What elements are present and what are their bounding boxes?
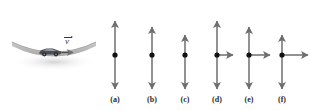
choice-label-e: (e) <box>237 95 261 104</box>
choice-diagrams <box>112 21 308 89</box>
choice-label-b: (b) <box>140 95 164 104</box>
origin-dot <box>112 52 117 57</box>
origin-dot <box>214 52 219 57</box>
origin-dot <box>279 52 284 57</box>
choice-diagram-d[interactable] <box>214 21 233 89</box>
choice-diagram-f[interactable] <box>279 35 308 89</box>
origin-dot <box>182 52 187 57</box>
choice-diagram-c[interactable] <box>182 35 187 89</box>
choice-label-f: (f) <box>270 95 294 104</box>
choice-diagram-a[interactable] <box>112 21 117 89</box>
choice-label-a: (a) <box>103 95 127 104</box>
velocity-overarrow-head <box>71 36 73 38</box>
origin-dot <box>246 52 251 57</box>
choice-diagram-e[interactable] <box>246 27 270 89</box>
origin-dot <box>149 52 154 57</box>
choice-label-d: (d) <box>205 95 229 104</box>
scene-car-on-dip <box>12 42 96 71</box>
choice-label-c: (c) <box>173 95 197 104</box>
choice-diagram-b[interactable] <box>149 27 154 89</box>
